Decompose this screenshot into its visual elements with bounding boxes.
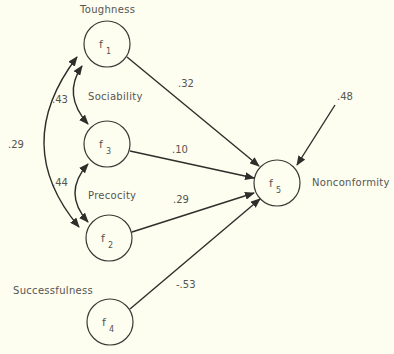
coef-f4-f5: -.53 [176,279,196,290]
coef-f1-f3: .43 [52,94,68,105]
svg-text:5: 5 [276,186,281,195]
coef-f3-f5: .10 [172,144,188,155]
svg-text:2: 2 [108,241,113,250]
label-sociability: Sociability [88,91,143,102]
label-precocity: Precocity [88,190,136,201]
label-nonconformity: Nonconformity [312,177,390,188]
coef-f1-f5: .32 [178,78,194,89]
diagram-canvas: Toughness Sociability Precocity Successf… [0,0,394,354]
coef-residual: .48 [337,91,353,102]
svg-text:4: 4 [109,325,114,334]
svg-text:1: 1 [106,47,111,56]
coef-f1-f2: .29 [8,139,24,150]
path-diagram: Toughness Sociability Precocity Successf… [0,0,394,354]
label-toughness: Toughness [79,4,135,15]
svg-text:3: 3 [106,147,111,156]
coef-f3-f2: .44 [52,177,68,188]
coef-f2-f5: .29 [173,194,189,205]
label-successfulness: Successfulness [13,285,93,296]
